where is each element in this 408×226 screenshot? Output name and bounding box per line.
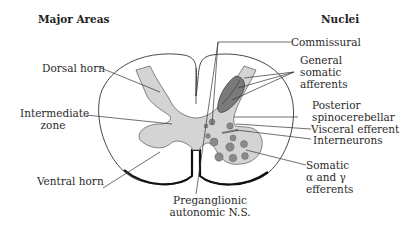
label-psc-line1: Posterior — [312, 99, 395, 111]
label-gsa-line3: afferents — [300, 78, 348, 90]
label-general-somatic-afferents: General somatic afferents — [300, 54, 348, 90]
label-se-line2: α and γ — [306, 171, 354, 183]
label-intermediate-line1: Intermediate — [20, 107, 86, 119]
header-nuclei: Nuclei — [321, 13, 359, 25]
label-intermediate-line2: zone — [20, 119, 86, 131]
label-ventral-horn: Ventral horn — [37, 175, 104, 187]
label-posterior-spinocerebellar: Posterior spinocerebellar — [312, 99, 395, 123]
label-preganglionic-line1: Preganglionic — [150, 194, 270, 206]
label-interneurons: Interneurons — [313, 134, 383, 146]
label-commissural: Commissural — [291, 36, 361, 48]
label-gsa-line2: somatic — [300, 66, 348, 78]
label-psc-line2: spinocerebellar — [312, 111, 395, 123]
label-dorsal-horn: Dorsal horn — [42, 62, 105, 74]
label-intermediate-zone: Intermediate zone — [20, 107, 86, 131]
label-se-line3: efferents — [306, 183, 354, 195]
header-major-areas: Major Areas — [38, 13, 110, 25]
label-se-line1: Somatic — [306, 159, 354, 171]
label-somatic-efferents: Somatic α and γ efferents — [306, 159, 354, 195]
label-preganglionic-line2: autonomic N.S. — [150, 206, 270, 218]
label-gsa-line1: General — [300, 54, 348, 66]
spinal-cord-diagram: Major Areas Nuclei Dorsal horn Intermedi… — [0, 0, 408, 226]
label-preganglionic: Preganglionic autonomic N.S. — [150, 194, 270, 218]
